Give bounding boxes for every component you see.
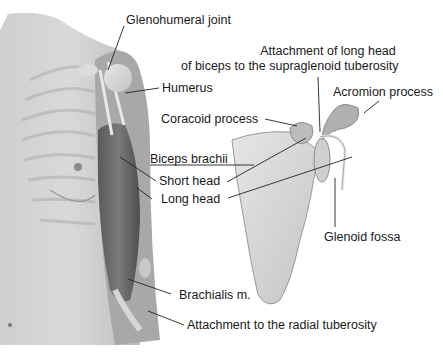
label-glenoid-fossa: Glenoid fossa xyxy=(324,230,400,244)
label-coracoid-process: Coracoid process xyxy=(161,112,258,126)
scapula xyxy=(232,104,359,304)
label-acromion-process: Acromion process xyxy=(333,85,433,99)
label-attachment-long-head-line1: Attachment of long head xyxy=(255,44,401,58)
label-short-head: Short head xyxy=(159,174,220,188)
label-biceps-brachii: Biceps brachii xyxy=(150,152,228,166)
label-humerus: Humerus xyxy=(162,81,213,95)
label-long-head: Long head xyxy=(161,192,220,206)
label-radial-tuberosity: Attachment to the radial tuberosity xyxy=(187,318,377,332)
label-brachialis: Brachialis m. xyxy=(179,288,251,302)
label-glenohumeral-joint: Glenohumeral joint xyxy=(126,13,231,27)
label-attachment-long-head-line2: of biceps to the supraglenoid tuberosity xyxy=(181,59,399,73)
